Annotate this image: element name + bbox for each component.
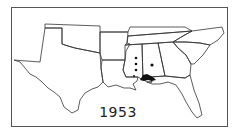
year-label: 1953 — [0, 104, 236, 120]
state-tennessee — [125, 31, 192, 45]
occurrence-marker — [133, 75, 135, 77]
state-texas — [14, 28, 103, 113]
occurrence-marker — [150, 63, 153, 66]
infestation-area — [140, 74, 156, 81]
occurrence-marker — [135, 57, 138, 60]
state-georgia — [158, 42, 191, 78]
state-kentucky — [100, 27, 192, 36]
state-arkansas — [100, 32, 130, 60]
state-louisiana — [101, 60, 138, 90]
state-south-carolina — [173, 42, 210, 64]
state-mississippi — [123, 44, 143, 80]
occurrence-marker — [135, 69, 138, 72]
occurrence-marker — [135, 63, 138, 66]
